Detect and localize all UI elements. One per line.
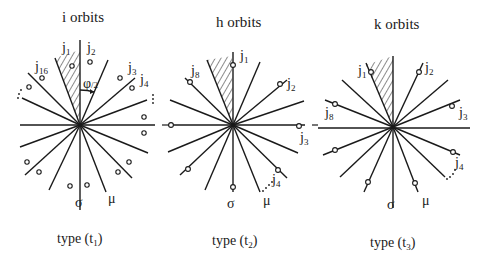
svg-text:j1: j1 xyxy=(357,63,366,80)
panel-title: k orbits xyxy=(374,16,420,32)
label-mu: μ xyxy=(108,191,116,206)
panel-caption: type (t2) xyxy=(212,233,258,250)
orbits-diagram: i orbits xyxy=(0,0,490,259)
svg-text:j2: j2 xyxy=(424,60,433,77)
label-mu: μ xyxy=(422,193,430,208)
svg-text:j4: j4 xyxy=(271,172,281,189)
label-sigma: σ xyxy=(387,197,395,212)
star-rays xyxy=(318,56,470,208)
svg-text:j8: j8 xyxy=(190,63,200,80)
svg-text:j4: j4 xyxy=(454,155,464,172)
panel-k-orbits: k orbits xyxy=(318,16,470,252)
svg-text:j1: j1 xyxy=(239,48,248,65)
svg-text:j2: j2 xyxy=(86,40,95,57)
panel-h-orbits: h orbits xyxy=(168,14,318,250)
svg-text:j1: j1 xyxy=(61,40,70,57)
svg-text:j8: j8 xyxy=(324,105,334,122)
panel-caption: type (t3) xyxy=(370,235,416,252)
svg-text:j3: j3 xyxy=(458,105,468,122)
label-mu: μ xyxy=(263,193,271,208)
label-sigma: σ xyxy=(227,196,235,211)
ellipsis-marks xyxy=(262,125,318,192)
panel-title: h orbits xyxy=(216,14,262,30)
label-phi: φ xyxy=(83,76,91,91)
panel-caption: type (t1) xyxy=(57,231,103,248)
svg-text:j4: j4 xyxy=(139,72,149,89)
svg-text:j3: j3 xyxy=(299,130,309,147)
svg-text:j16: j16 xyxy=(34,59,48,76)
panel-title: i orbits xyxy=(62,9,104,25)
svg-text:φ/2: φ/2 xyxy=(83,76,98,91)
ellipsis-marks xyxy=(446,169,456,180)
label-sigma: σ xyxy=(75,195,83,210)
panel-i-orbits: i orbits xyxy=(17,9,168,248)
svg-text:j3: j3 xyxy=(127,60,137,77)
svg-text:j2: j2 xyxy=(286,76,295,93)
